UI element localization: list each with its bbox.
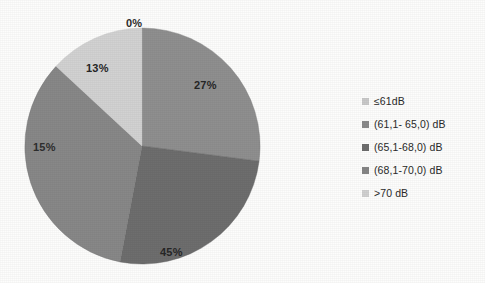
chart-legend: ≤61dB (61,1- 65,0) dB (65,1-68,0) dB (68… (362, 90, 485, 205)
pie-plot-area: 0% 13% 27% 15% 45% (12, 16, 272, 272)
pie-slice-61-65db (142, 28, 260, 161)
legend-swatch-icon (362, 121, 369, 128)
legend-item: >70 dB (362, 182, 485, 205)
pie-label-gt70db: 13% (86, 63, 109, 74)
legend-item-label: (65,1-68,0) dB (374, 142, 443, 153)
pie-slice-65-68db (120, 146, 259, 264)
legend-swatch-icon (362, 167, 369, 174)
legend-item: ≤61dB (362, 90, 485, 113)
legend-item: (68,1-70,0) dB (362, 159, 485, 182)
legend-swatch-icon (362, 144, 369, 151)
legend-swatch-icon (362, 190, 369, 197)
legend-item-label: (61,1- 65,0) dB (374, 119, 446, 130)
legend-item-label: (68,1-70,0) dB (374, 165, 443, 176)
legend-item: (65,1-68,0) dB (362, 136, 485, 159)
legend-item-label: ≤61dB (374, 96, 405, 107)
pie-label-61-65db: 27% (194, 80, 217, 91)
pie-label-68-70db: 15% (33, 142, 56, 153)
legend-item: (61,1- 65,0) dB (362, 113, 485, 136)
pie-label-65-68db: 45% (160, 247, 183, 258)
pie-label-le61db: 0% (126, 18, 142, 29)
legend-item-label: >70 dB (374, 188, 408, 199)
legend-swatch-icon (362, 98, 369, 105)
pie-chart-figure: 0% 13% 27% 15% 45% ≤61dB (61,1- 65,0) dB… (0, 0, 485, 283)
